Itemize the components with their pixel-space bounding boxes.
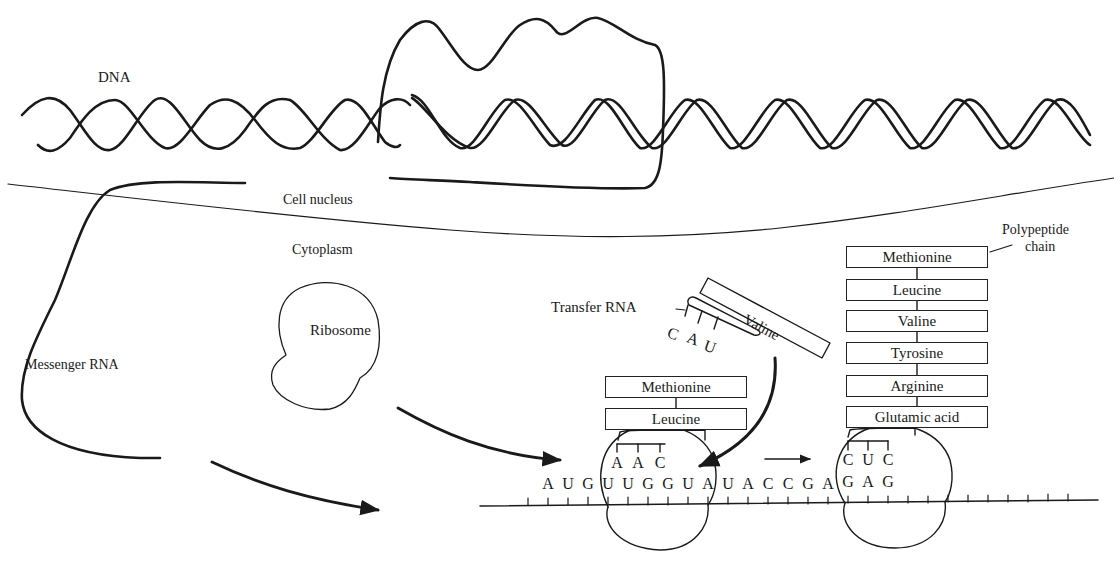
mrna-base: C [781,476,795,492]
ribosome-2-amino-acid-methionine: Methionine [846,246,988,268]
ribosome-1-anticodon-1: A [610,455,624,471]
arrow-ribosome-to-mrna [398,408,560,460]
mrna-base: G [581,476,595,492]
mrna-base: C [761,476,775,492]
mrna-base: U [621,476,635,492]
ribosome-2-anticodon-3: C [881,452,895,468]
messenger-rna-label: Messenger RNA [25,358,119,372]
polypeptide-leader [990,245,1012,252]
mrna-base: G [881,474,895,490]
dna-strand-b-left [38,100,400,151]
ribosome-1-anticodon-2: A [631,455,645,471]
ribosome-label: Ribosome [310,323,371,338]
transfer-rna-label: Transfer RNA [551,300,637,315]
trna-ribosome-2 [848,428,915,450]
mrna-base: U [721,476,735,492]
polypeptide-label-line2: chain [1025,240,1055,254]
ribosome-1-amino-acid-leucine: Leucine [605,408,747,430]
polypeptide-label-line1: Polypeptide [1002,223,1069,237]
ribosome-2-amino-acid-leucine: Leucine [846,279,988,301]
transfer-rna-leader [676,309,685,310]
ribosome-2-amino-acid-glutamic-acid: Glutamic acid [846,406,988,428]
ribosome-2-amino-acid-valine: Valine [846,310,988,332]
mrna-base: A [741,476,755,492]
messenger-rna-strand [22,182,245,458]
mrna-base: G [641,476,655,492]
mrna-backbone [480,494,1098,506]
mrna-base: A [701,476,715,492]
mrna-base: G [841,474,855,490]
ribosome-1-amino-acid-methionine: Methionine [605,376,747,398]
ribosome-2-anticodon-1: C [841,452,855,468]
mrna-base: A [861,474,875,490]
ribosome-2-amino-acid-arginine: Arginine [846,375,988,397]
mrna-base: A [541,476,555,492]
dna-strand-a-right [412,95,1090,148]
mrna-base: A [821,476,835,492]
mrna-base: G [661,476,675,492]
mrna-base: U [601,476,615,492]
dna-unwound-strand [378,18,664,189]
mrna-base: U [681,476,695,492]
protein-synthesis-diagram: DNA Cell nucleus Cytoplasm Ribosome Mess… [0,0,1114,563]
dna-strand-b-right [412,98,1090,148]
dna-helix [22,18,1090,189]
ribosome-1-anticodon-3: C [653,455,667,471]
free-ribosome [271,283,379,410]
dna-label: DNA [98,70,131,85]
arrow-mrna-to-ribosome [212,462,378,510]
mrna-base: G [801,476,815,492]
mrna-base: U [561,476,575,492]
ribosome-2-anticodon-2: U [861,452,875,468]
cytoplasm-label: Cytoplasm [292,243,353,257]
cell-nucleus-label: Cell nucleus [283,193,353,207]
ribosome-2-amino-acid-tyrosine: Tyrosine [846,342,988,364]
